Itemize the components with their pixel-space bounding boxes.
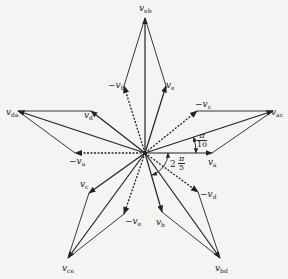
label-v-a: va bbox=[208, 158, 217, 168]
completion-line bbox=[18, 111, 75, 153]
phasor-v-e bbox=[145, 86, 166, 153]
label-neg-v-b: −vb bbox=[108, 81, 124, 91]
completion-line bbox=[212, 111, 273, 153]
angle-arc-pi-10 bbox=[194, 137, 197, 153]
phasor-v-da bbox=[18, 111, 145, 153]
completion-line bbox=[145, 18, 166, 86]
completion-line bbox=[162, 212, 220, 258]
label-v-c: vc bbox=[80, 180, 88, 190]
label-neg-v-d: −vd bbox=[200, 190, 216, 200]
angle-label-pi-10: π10 bbox=[197, 132, 207, 149]
phasor-v-ce bbox=[68, 153, 145, 258]
label-v-ac: vac bbox=[271, 108, 283, 118]
label-neg-v-a: −va bbox=[69, 157, 85, 167]
label-neg-v-c: −vc bbox=[195, 100, 211, 110]
phasor-v-ac bbox=[145, 111, 273, 153]
completion-line bbox=[198, 192, 220, 258]
label-v-b: vb bbox=[156, 218, 165, 228]
origin-point bbox=[143, 151, 147, 155]
label-v-eb: veb bbox=[139, 4, 152, 14]
phasor-neg-v-c bbox=[145, 111, 197, 153]
phasor-v-b bbox=[145, 153, 162, 212]
label-neg-v-e: −ve bbox=[125, 217, 141, 227]
label-v-d: vd bbox=[84, 111, 93, 121]
angle-label-2pi-5: π5 bbox=[178, 155, 185, 172]
label-v-ce: vce bbox=[62, 264, 74, 274]
completion-line bbox=[124, 18, 145, 86]
phasor-neg-v-e bbox=[124, 153, 145, 214]
label-v-e: ve bbox=[166, 81, 175, 91]
completion-line bbox=[68, 193, 89, 258]
phasor-neg-v-b bbox=[124, 86, 145, 153]
label-v-bd: vbd bbox=[215, 264, 228, 274]
phasor-v-c bbox=[89, 153, 145, 193]
angle-label-2pi-5-coef: 2 bbox=[170, 159, 176, 169]
phasor-v-d bbox=[91, 111, 145, 153]
phasor-diagram: veb vac vda vce vbd va −va vb −vb vc −vc… bbox=[0, 0, 288, 279]
label-v-da: vda bbox=[6, 108, 19, 118]
phasor-lines bbox=[0, 0, 288, 279]
